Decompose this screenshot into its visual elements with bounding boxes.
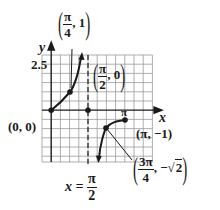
y-axis-arrow-icon <box>48 42 54 50</box>
x-tick-label: π <box>121 107 127 118</box>
point-pi-over-2 <box>85 107 91 113</box>
leader-3pi-over-4 <box>107 129 132 160</box>
asymptote-label: x = π2 <box>65 172 97 203</box>
label-3pi-over-4-sign: − <box>160 160 167 175</box>
label-3pi-over-4: (3π4, −√2) <box>133 155 187 184</box>
label-pi-over-4-num: π <box>63 10 72 25</box>
label-pi: (π, −1) <box>136 127 172 140</box>
x-axis-label: x <box>159 111 166 125</box>
label-pi-over-4: (π4, 1) <box>58 10 90 39</box>
y-tick-label: 2.5 <box>31 58 47 71</box>
asymptote-label-num: π <box>87 172 97 188</box>
point-origin <box>48 107 54 113</box>
label-3pi-over-4-num: 3π <box>138 155 154 170</box>
label-3pi-over-4-root: 2 <box>175 159 183 175</box>
asymptote-label-den: 2 <box>88 188 95 203</box>
label-3pi-over-4-den: 4 <box>143 170 150 184</box>
curve-arrow-up-icon <box>79 52 85 60</box>
point-pi-over-4 <box>67 89 73 95</box>
point-pi <box>122 117 128 123</box>
label-pi-over-2-den: 2 <box>99 77 106 91</box>
y-axis-label: y <box>39 41 45 55</box>
label-pi-over-2: (π2, 0) <box>93 62 125 91</box>
label-pi-over-2-num: π <box>98 62 107 77</box>
label-pi-over-4-den: 4 <box>64 25 71 39</box>
asymptote-label-lhs: x = <box>65 179 83 194</box>
label-origin: (0, 0) <box>8 120 36 133</box>
